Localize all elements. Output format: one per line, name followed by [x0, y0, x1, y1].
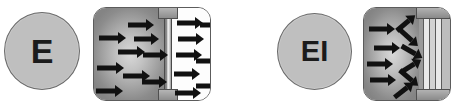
arrow-head — [160, 49, 168, 61]
flow-arrow — [370, 74, 396, 86]
flow-arrow — [97, 62, 124, 74]
symbol-circle-ei: EI — [277, 13, 352, 90]
arrow-shaft — [174, 72, 192, 77]
symbol-label-ei: EI — [301, 37, 328, 66]
arrow-shaft — [118, 50, 137, 55]
flow-arrow — [118, 46, 145, 58]
arrow-head — [388, 74, 396, 86]
arrow-shaft — [134, 37, 151, 42]
arrow-head — [159, 76, 167, 88]
arrow-head — [118, 32, 126, 44]
arrow-shaft — [370, 78, 388, 83]
arrow-shaft — [374, 46, 392, 51]
arrow-head — [392, 42, 400, 54]
arrow-shaft — [200, 23, 211, 28]
flow-arrow — [134, 33, 159, 45]
column-cap-bottom — [416, 89, 450, 100]
symbol-circle-e: E — [4, 12, 80, 90]
flow-arrow — [178, 33, 204, 45]
arrow-head — [385, 58, 393, 70]
arrow-shaft — [97, 66, 116, 71]
arrow-shaft — [176, 53, 194, 58]
arrow-shaft — [142, 80, 159, 85]
flow-arrow — [200, 19, 211, 31]
arrow-head — [146, 19, 154, 31]
arrow-shaft — [175, 91, 193, 96]
membrane-cap-top — [158, 8, 178, 19]
flow-arrow — [367, 58, 393, 70]
flow-arrow — [369, 23, 395, 35]
arrow-shaft — [143, 53, 160, 58]
flow-arrow — [96, 85, 123, 97]
arrow-shaft — [367, 62, 385, 67]
open-channel-box — [93, 7, 211, 101]
arrow-shaft — [123, 74, 142, 79]
blocked-channel-box — [363, 7, 451, 101]
flow-arrow — [175, 87, 201, 99]
arrow-head — [192, 68, 200, 80]
arrow-head — [151, 33, 159, 45]
flow-arrow — [142, 76, 167, 88]
flow-arrow — [99, 32, 126, 44]
arrow-shaft — [177, 21, 195, 26]
column-cap-top — [416, 8, 450, 19]
arrow-shaft — [196, 59, 211, 64]
arrow-head — [196, 33, 204, 45]
flow-arrow — [196, 55, 211, 67]
arrow-shaft — [99, 36, 118, 41]
flow-arrow — [128, 19, 154, 31]
arrow-shaft — [96, 89, 115, 94]
arrow-shaft — [178, 37, 196, 42]
symbol-label-e: E — [31, 34, 54, 68]
arrow-head — [193, 87, 201, 99]
arrow-shaft — [369, 27, 387, 32]
arrow-head — [115, 85, 123, 97]
flow-arrow — [174, 68, 200, 80]
arrow-shaft — [128, 23, 146, 28]
flow-arrow — [374, 42, 400, 54]
flow-arrow — [143, 49, 168, 61]
